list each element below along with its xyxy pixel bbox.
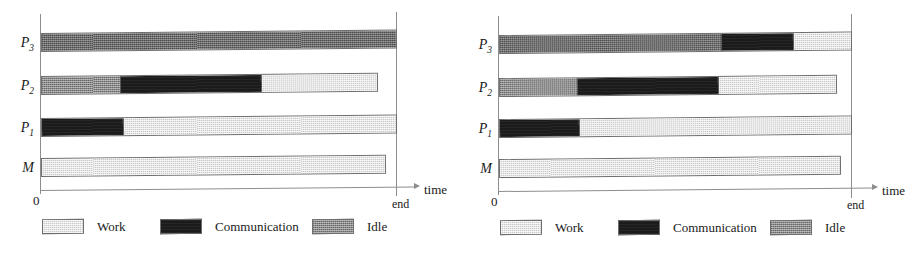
segment-work (793, 33, 851, 51)
segment-communication (577, 77, 718, 95)
x-axis-line (498, 187, 873, 192)
segment-idle (500, 78, 577, 96)
idle-swatch (312, 218, 354, 233)
segment-communication (120, 75, 261, 93)
x-axis-origin-tick (498, 186, 499, 195)
x-axis-arrow-icon (414, 183, 420, 189)
legend-label-idle: Idle (825, 221, 845, 234)
segment-communication (42, 118, 124, 136)
legend-item-work: Work (500, 220, 584, 235)
segment-work (261, 74, 377, 92)
segment-idle (42, 76, 120, 94)
segment-work (579, 117, 851, 137)
segment-work (42, 156, 385, 176)
legend-item-work: Work (42, 219, 126, 234)
x-axis-line (40, 186, 415, 191)
row-label-p1: P1 (8, 121, 34, 138)
legend-label-work: Work (555, 221, 584, 234)
legend-label-work: Work (97, 220, 126, 233)
legend-label-communication: Communication (673, 221, 757, 234)
x-axis-origin-label: 0 (491, 195, 498, 208)
legend-label-idle: Idle (367, 220, 387, 233)
legend-item-communication: Communication (618, 220, 757, 235)
segment-communication (721, 33, 793, 51)
bar-row-m (41, 155, 386, 177)
row-label-m: M (466, 162, 492, 176)
figure-gantt-schedule-comparison: { "figure": { "caption": "", "type": "ga… (0, 0, 924, 255)
row-label-p3: P3 (466, 38, 492, 55)
work-swatch (42, 218, 84, 233)
segment-work (500, 157, 840, 177)
row-label-m-text: M (22, 160, 34, 175)
row-label-p3-subscript: 3 (29, 43, 34, 53)
row-label-p2: P2 (466, 81, 492, 98)
bar-row-p2 (41, 73, 378, 95)
work-swatch (500, 219, 542, 234)
x-axis-origin-tick (40, 185, 41, 194)
x-axis-origin-label: 0 (33, 194, 40, 207)
row-label-p2: P2 (8, 79, 34, 96)
x-axis-label: time (882, 184, 905, 197)
legend-right: Work Communication Idle (462, 216, 924, 238)
idle-swatch (770, 219, 812, 234)
row-label-p1-subscript: 1 (487, 129, 492, 139)
segment-work (718, 76, 836, 94)
chart-panel-right: P3 P2 P1 M time 0 end (462, 0, 924, 255)
bar-row-p2 (499, 75, 837, 97)
legend-item-idle: Idle (770, 220, 845, 235)
legend-label-communication: Communication (215, 220, 299, 233)
row-label-p2-subscript: 2 (487, 88, 492, 98)
row-label-p1-text: P (21, 120, 30, 135)
x-axis-end-label: end (847, 199, 864, 211)
row-label-m: M (8, 161, 34, 175)
row-label-p3-text: P (21, 35, 30, 50)
bar-row-p3 (41, 30, 397, 52)
x-axis-end-label: end (392, 198, 409, 210)
row-label-p1-text: P (479, 121, 488, 136)
segment-communication (500, 119, 579, 137)
row-label-p3: P3 (8, 36, 34, 53)
row-label-m-text: M (480, 161, 492, 176)
communication-swatch (618, 219, 660, 234)
bar-row-p1 (499, 116, 852, 138)
bar-row-p1 (41, 115, 397, 137)
legend-item-communication: Communication (160, 219, 299, 234)
segment-idle (500, 34, 721, 53)
bar-row-m (499, 156, 841, 178)
row-label-p2-text: P (479, 80, 488, 95)
row-label-p2-subscript: 2 (29, 86, 34, 96)
legend-item-idle: Idle (312, 219, 387, 234)
x-axis-arrow-icon (872, 184, 878, 190)
chart-pair-container: P3 P2 P1 M time 0 end (0, 0, 924, 255)
segment-work (123, 116, 396, 136)
row-label-p2-text: P (21, 78, 30, 93)
row-label-p1-subscript: 1 (29, 128, 34, 138)
communication-swatch (160, 218, 202, 233)
segment-idle (42, 31, 396, 51)
x-axis-label: time (424, 183, 447, 196)
row-label-p3-text: P (479, 37, 488, 52)
chart-panel-left: P3 P2 P1 M time 0 end (0, 0, 462, 255)
legend-left: Work Communication Idle (0, 215, 462, 237)
bar-row-p3 (499, 32, 852, 54)
row-label-p1: P1 (466, 122, 492, 139)
row-label-p3-subscript: 3 (487, 45, 492, 55)
